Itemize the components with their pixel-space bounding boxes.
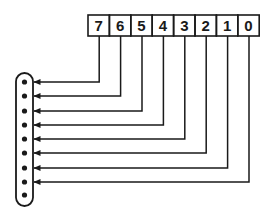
connector-pin-7: [22, 165, 27, 170]
connector-pin-5: [22, 136, 27, 141]
bit-label: 5: [137, 17, 145, 34]
bit-label: 1: [223, 17, 231, 34]
connector-pin-9: [22, 192, 27, 197]
wire-bit-7: [34, 36, 99, 82]
wire-bit-3: [34, 36, 185, 139]
connector-pin-2: [22, 93, 27, 98]
bit-label: 2: [202, 17, 210, 34]
bit-cell-4: 4: [152, 15, 173, 36]
bit-mapping-diagram: 76543210: [0, 0, 273, 216]
wire-group: [34, 36, 249, 182]
bit-label: 6: [116, 17, 124, 34]
bit-cell-7: 7: [88, 15, 109, 36]
bit-cell-2: 2: [195, 15, 216, 36]
connector-pin-4: [22, 122, 27, 127]
bit-cell-3: 3: [174, 15, 195, 36]
wire-bit-1: [34, 36, 228, 168]
bit-cell-0: 0: [238, 15, 259, 36]
connector-pin-6: [22, 150, 27, 155]
bit-label: 0: [244, 17, 252, 34]
bit-label: 7: [95, 17, 103, 34]
bit-label: 4: [159, 17, 168, 34]
wire-bit-6: [34, 36, 121, 96]
bit-label: 3: [180, 17, 188, 34]
wire-bit-5: [34, 36, 142, 111]
connector-pin-8: [22, 179, 27, 184]
bit-cell-1: 1: [216, 15, 237, 36]
connector-pin-1: [22, 79, 27, 84]
bit-cell-5: 5: [131, 15, 152, 36]
pin-connector: [16, 73, 33, 206]
register-bit-row: 76543210: [88, 15, 259, 36]
bit-cell-6: 6: [109, 15, 130, 36]
connector-pin-3: [22, 108, 27, 113]
